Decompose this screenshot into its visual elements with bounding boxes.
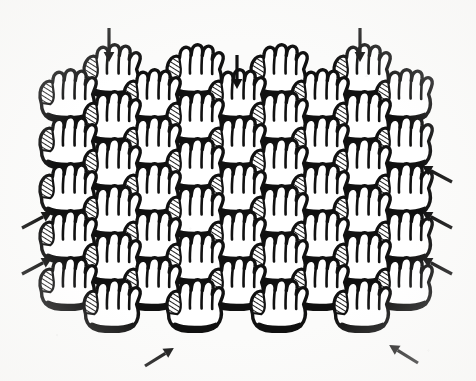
tessellation-figure: Tessellated hand pattern with directiona…	[0, 0, 476, 381]
figure-canvas	[0, 0, 476, 381]
hand-grid	[40, 45, 432, 332]
